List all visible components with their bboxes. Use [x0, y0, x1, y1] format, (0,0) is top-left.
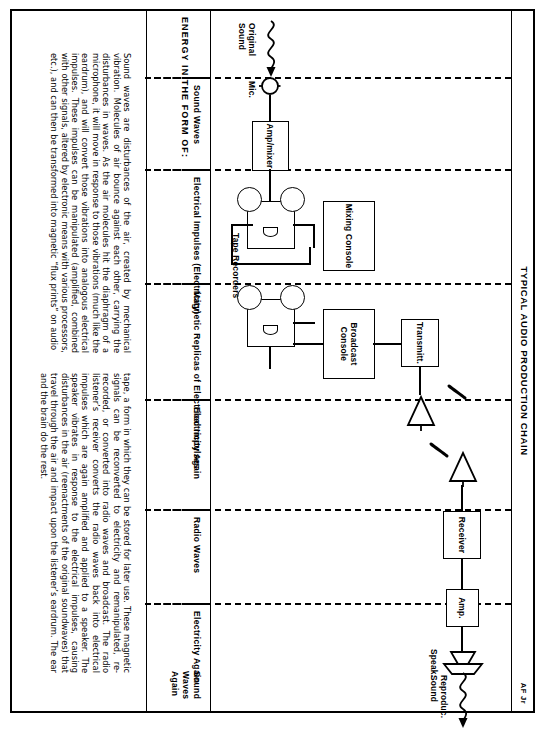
transmitter-label: Transmitt.: [415, 322, 425, 364]
mixing-console-label: Mixing Console: [344, 204, 354, 269]
transmitter-box: Transmitt.: [401, 319, 439, 367]
rotated-page-canvas: TYPICAL AUDIO PRODUCTION CHAIN AF Jr Ori…: [0, 0, 543, 729]
receiver-label: Receiver: [457, 517, 467, 554]
wire-ampmixer-to-tape: [269, 169, 271, 201]
speaker-label: Speak.: [429, 649, 439, 677]
wire-broadcast-to-transmitter: [373, 343, 403, 345]
wire-antenna-to-receiver: [461, 485, 463, 513]
signal-chain-diagram: Original Sound Mic. Amp/mixer: [211, 11, 511, 711]
amplifier-label: Amp.: [458, 597, 468, 619]
title-bar: TYPICAL AUDIO PRODUCTION CHAIN: [511, 11, 533, 711]
receive-antenna-icon: [445, 449, 479, 489]
wire-tape1-to-console-run: [231, 224, 233, 264]
amplifier-box: Amp.: [446, 589, 479, 627]
wire-console-feed: [231, 263, 311, 265]
tape-recorder-2-head: [263, 325, 278, 335]
tape-recorder-2-reel-left: [280, 285, 305, 310]
page-frame: TYPICAL AUDIO PRODUCTION CHAIN AF Jr Ori…: [10, 9, 535, 713]
original-sound-wave-icon: [259, 19, 283, 79]
microphone-icon: [259, 75, 281, 97]
energy-tick-2: [154, 169, 206, 171]
transmit-antenna-icon: [403, 393, 437, 433]
amp-mixer-label: Amp/mixer: [266, 123, 276, 168]
wire-receiver-to-amp: [461, 559, 463, 589]
reproduced-sound-wave-icon: [451, 671, 475, 729]
caption-paragraph-1: Sound waves are disturbances of the air,…: [49, 53, 132, 353]
energy-tick-6: [154, 603, 206, 605]
wire-mic-to-ampmixer: [269, 95, 271, 121]
wire-tape2-up: [293, 322, 315, 324]
broadcast-console-label: Broadcast Console: [339, 310, 359, 378]
energy-tick-1: [154, 77, 206, 79]
receiver-box: Receiver: [443, 511, 481, 559]
energy-cell-sound-waves: Sound Waves: [191, 85, 202, 144]
energy-cell-radio-waves: Radio Waves: [191, 517, 202, 573]
energy-band-header: ENERGY IN THE FORM OF:: [180, 17, 190, 158]
energy-tick-5: [154, 509, 206, 511]
wire-transmitter-to-antenna: [419, 367, 421, 395]
mixing-console-box: Mixing Console: [323, 201, 375, 271]
microphone-label: Mic.: [247, 81, 257, 98]
original-sound-label: Original Sound: [237, 23, 257, 56]
wire-to-mixing-console: [313, 224, 315, 248]
signature: AF Jr: [519, 683, 528, 704]
caption-paragraph-2: tape, a form in which they can be stored…: [38, 373, 132, 673]
radio-wave-emission-icon: [445, 383, 467, 403]
reproduced-sound-label: Reproduc. Sound: [429, 675, 449, 718]
energy-cell-sound-waves-again: Sound Waves Again: [169, 671, 202, 711]
amp-mixer-box: Amp/mixer: [252, 121, 289, 171]
energy-form-band: ENERGY IN THE FORM OF: Sound Waves Elect…: [149, 11, 211, 711]
radio-wave-reception-icon: [427, 441, 449, 461]
caption-text-block: Sound waves are disturbances of the air,…: [8, 11, 147, 711]
wire-tape1-down: [231, 224, 253, 226]
page-title: TYPICAL AUDIO PRODUCTION CHAIN: [519, 11, 530, 711]
tape-recorder-1-reel-left: [280, 187, 305, 212]
energy-cell-electricity-again: Electricity Again: [191, 407, 202, 479]
tape-recorder-1-reel-right: [237, 187, 262, 212]
tape-recorder-1-head: [263, 227, 278, 237]
wire-amp-to-speaker: [461, 627, 463, 653]
wire-tape1-up: [293, 224, 315, 226]
wire-console-feed-h: [309, 247, 311, 265]
wire-broadcast-console-down: [293, 343, 323, 345]
wire-tape2-out: [269, 347, 271, 369]
broadcast-console-box: Broadcast Console: [323, 309, 375, 379]
